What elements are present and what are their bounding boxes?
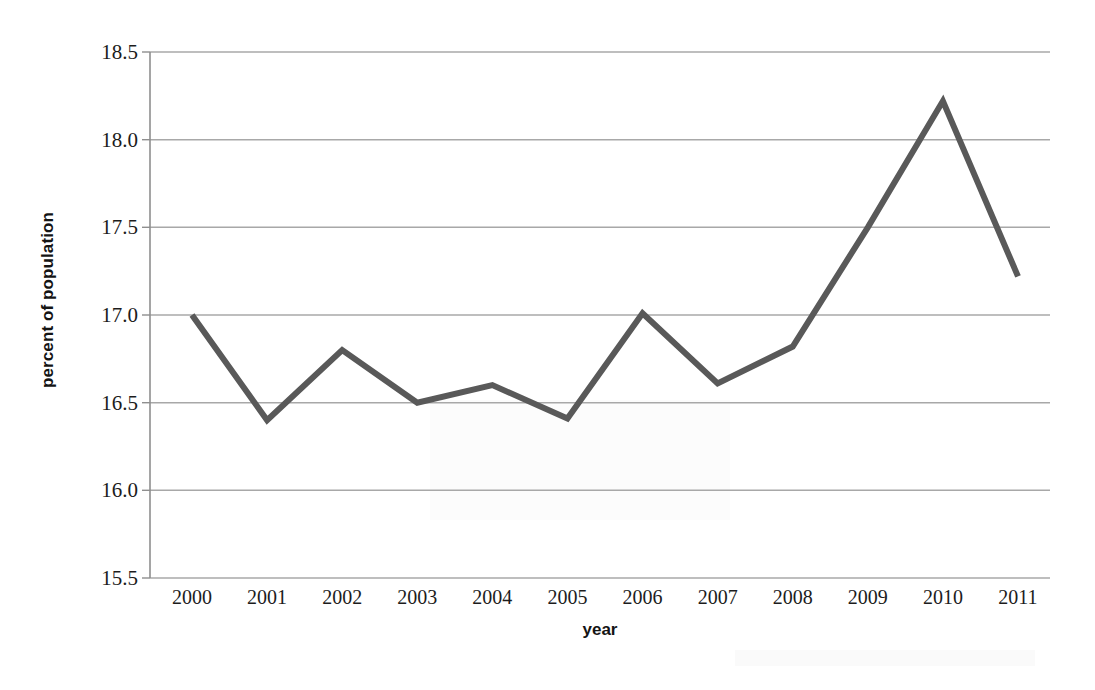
- x-tick-label: 2011: [973, 586, 1063, 609]
- line-chart-figure: percent of population 18.5 18.0 17.5 17.…: [0, 0, 1095, 690]
- data-series-line: [192, 101, 1018, 420]
- y-axis-ticks: [142, 52, 150, 578]
- x-axis-tick-labels: 2000200120022003200420052006200720082009…: [150, 586, 1050, 620]
- gridlines: [150, 52, 1050, 578]
- x-axis-title: year: [150, 620, 1050, 640]
